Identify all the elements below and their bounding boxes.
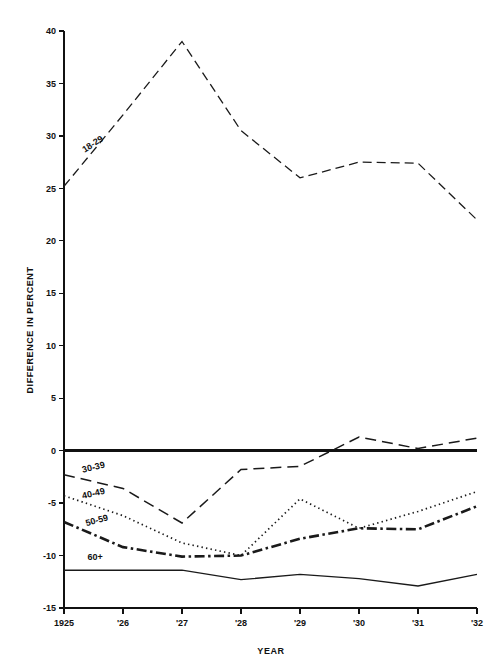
series-labels: 18-2930-3940-4950-5960+ xyxy=(80,133,109,561)
x-tick-label: '31 xyxy=(412,618,424,628)
y-tick-label: 40 xyxy=(46,26,56,36)
series-label-50-59: 50-59 xyxy=(84,512,109,528)
x-tick-label: 1925 xyxy=(54,618,74,628)
x-tick-label: '28 xyxy=(235,618,247,628)
x-tick-label: '32 xyxy=(471,618,483,628)
y-tick-label: 20 xyxy=(46,236,56,246)
y-tick-label: 10 xyxy=(46,341,56,351)
series-label-30-39: 30-39 xyxy=(81,460,106,475)
series-line-40-49 xyxy=(64,492,477,556)
y-tick-label: 5 xyxy=(51,393,56,403)
y-tick-label: 15 xyxy=(46,288,56,298)
x-axis-ticks: 1925'26'27'28'29'30'31'32 xyxy=(54,608,483,628)
x-tick-label: '29 xyxy=(294,618,306,628)
chart-container: 4035302520151050-5-10-15 1925'26'27'28'2… xyxy=(0,0,504,665)
y-tick-label: 30 xyxy=(46,131,56,141)
y-tick-label: -10 xyxy=(43,551,56,561)
x-tick-label: '30 xyxy=(353,618,365,628)
line-chart-figure: 4035302520151050-5-10-15 1925'26'27'28'2… xyxy=(0,0,504,665)
series-line-60plus xyxy=(64,570,477,586)
series-line-18-29 xyxy=(64,41,477,219)
axes xyxy=(64,31,477,608)
y-tick-label: -5 xyxy=(48,498,56,508)
series-label-40-49: 40-49 xyxy=(81,486,106,501)
series-line-50-59 xyxy=(64,506,477,556)
x-tick-label: '26 xyxy=(117,618,129,628)
y-tick-label: -15 xyxy=(43,603,56,613)
y-tick-label: 35 xyxy=(46,79,56,89)
y-tick-label: 25 xyxy=(46,184,56,194)
x-tick-label: '27 xyxy=(176,618,188,628)
y-axis-title: DIFFERENCE IN PERCENT xyxy=(25,266,35,393)
axis-spines xyxy=(64,31,477,608)
y-axis-ticks: 4035302520151050-5-10-15 xyxy=(43,26,64,613)
y-tick-label: 0 xyxy=(51,446,56,456)
data-series xyxy=(64,41,477,585)
x-axis-title: YEAR xyxy=(257,646,284,656)
series-label-60plus: 60+ xyxy=(88,552,103,562)
